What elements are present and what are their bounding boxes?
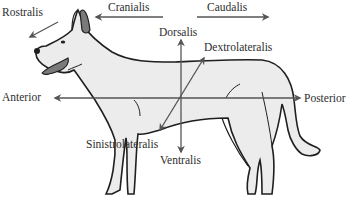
label-dorsalis: Dorsalis (159, 27, 197, 39)
label-ventralis: Ventralis (160, 155, 201, 167)
label-rostralis: Rostralis (2, 7, 43, 19)
eye (61, 40, 65, 43)
nose (34, 48, 40, 54)
label-sinistrolateralis: Sinistrolateralis (86, 139, 158, 151)
label-posterior: Posterior (304, 93, 346, 105)
label-cranialis: Cranialis (108, 2, 150, 14)
label-dextrolateralis: Dextrolateralis (204, 42, 272, 54)
anatomical-directions-diagram: Rostralis Cranialis Caudalis Dorsalis De… (0, 0, 357, 198)
label-anterior: Anterior (2, 92, 41, 104)
label-caudalis: Caudalis (207, 2, 247, 14)
arrow-rostralis (30, 22, 58, 37)
ear (80, 10, 90, 33)
